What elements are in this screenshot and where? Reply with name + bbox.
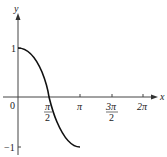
x-tick-2pi-label: 2π (137, 101, 148, 112)
cosine-chart: y x 0 1 −1 π 2 π 3π 2 2π (0, 0, 167, 157)
x-axis-arrow-icon (151, 95, 158, 100)
x-tick-3pi-half-den: 2 (109, 112, 114, 123)
y-tick-1-label: 1 (11, 43, 16, 54)
x-tick-pi-half-den: 2 (45, 112, 50, 123)
origin-label: 0 (10, 100, 15, 111)
x-tick-3pi-half-num: 3π (105, 101, 117, 112)
x-axis-label: x (159, 91, 165, 102)
x-tick-pi-label: π (77, 101, 83, 112)
y-tick-neg1-label: −1 (4, 142, 15, 153)
y-axis-label: y (13, 3, 19, 14)
y-axis-arrow-icon (16, 13, 21, 20)
